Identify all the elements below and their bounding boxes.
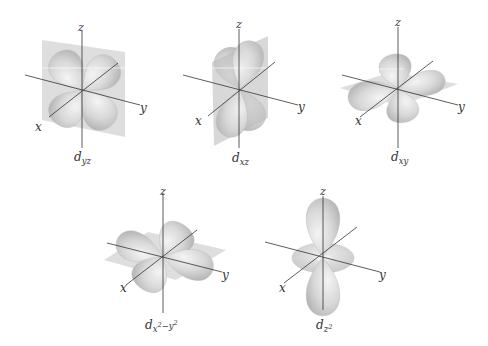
z-axis-label: z bbox=[159, 185, 166, 198]
z-axis-label: z bbox=[235, 18, 242, 31]
orbital-dxz: z y x dxz bbox=[183, 18, 305, 167]
d-orbitals-diagram: z y x dyz z y x dxz bbox=[0, 0, 488, 346]
y-axis-label: y bbox=[457, 100, 465, 114]
caption-dxy: dxy bbox=[391, 150, 408, 166]
y-axis-label: y bbox=[297, 100, 305, 114]
orbital-dyz: z y x dyz bbox=[25, 21, 147, 166]
x-axis-label: x bbox=[35, 120, 42, 134]
y-axis-label: y bbox=[378, 268, 386, 282]
caption-dz2: dz2 bbox=[316, 318, 332, 334]
caption-dyz: dyz bbox=[74, 150, 91, 166]
caption-dxz: dxz bbox=[232, 151, 249, 167]
x-axis-label: x bbox=[120, 281, 127, 295]
z-axis-label: z bbox=[319, 185, 326, 198]
y-axis-label: y bbox=[221, 268, 229, 282]
x-axis-label: x bbox=[195, 114, 202, 128]
x-axis-label: x bbox=[279, 281, 286, 295]
caption-dx2-y2: dx2−y2 bbox=[145, 318, 178, 334]
z-axis-label: z bbox=[394, 16, 401, 29]
z-axis-label: z bbox=[77, 21, 84, 34]
orbital-dz2: z y x dz2 bbox=[265, 185, 386, 334]
dx2y2-lobes bbox=[112, 215, 217, 298]
y-axis-label: y bbox=[139, 101, 147, 115]
x-axis-label: x bbox=[355, 114, 362, 128]
orbital-dxy: z y x dxy bbox=[338, 16, 465, 166]
orbital-dx2-y2: z y x dx2−y2 bbox=[104, 185, 229, 334]
